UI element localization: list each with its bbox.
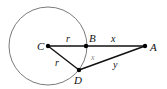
- label-d: D: [73, 74, 82, 86]
- label-y: y: [112, 59, 118, 70]
- point-b: [84, 44, 88, 48]
- point-d: [77, 68, 81, 72]
- label-r-left: r: [55, 57, 59, 68]
- label-a: A: [149, 41, 157, 53]
- segment-da: [79, 46, 145, 70]
- label-r-top: r: [66, 33, 70, 44]
- point-a: [143, 44, 147, 48]
- label-c: C: [37, 40, 45, 52]
- label-x-top: x: [110, 33, 116, 44]
- point-c: [46, 44, 50, 48]
- geometry-diagram: C B A D r x r x y: [0, 0, 167, 89]
- segment-cd: [48, 46, 79, 70]
- label-x-arc: x: [90, 53, 95, 62]
- label-b: B: [89, 32, 96, 44]
